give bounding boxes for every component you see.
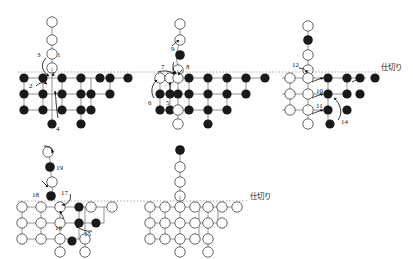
node-open <box>145 202 155 212</box>
node-filled <box>123 73 132 82</box>
node-filled <box>184 89 193 98</box>
node-open <box>203 234 213 244</box>
node-filled <box>76 89 85 98</box>
node-filled <box>38 73 47 82</box>
node-open <box>47 177 57 187</box>
node-filled <box>38 105 47 114</box>
node-filled <box>86 89 95 98</box>
node-filled <box>370 73 379 82</box>
node-open <box>17 218 27 228</box>
node-filled <box>165 89 174 98</box>
node-filled <box>203 105 212 114</box>
annotation-13: 13 <box>357 91 365 99</box>
node-open <box>190 218 200 228</box>
node-open <box>203 218 213 228</box>
node-filled <box>105 89 114 98</box>
node-open <box>55 234 65 244</box>
annotation-8: 8 <box>186 63 190 71</box>
node-filled <box>19 105 28 114</box>
node-open <box>55 247 65 257</box>
annotation-9: 9 <box>171 45 175 53</box>
annotation-3: 3 <box>37 51 41 59</box>
node-open <box>217 218 227 228</box>
annotation-17: 17 <box>61 189 69 197</box>
node-open <box>303 50 313 60</box>
node-filled <box>173 89 182 98</box>
node-open <box>86 202 96 212</box>
node-open <box>190 234 200 244</box>
node-filled <box>325 119 334 128</box>
annotation-1: 1 <box>57 51 61 59</box>
node-filled <box>203 119 212 128</box>
node-filled <box>19 89 28 98</box>
node-filled <box>175 145 185 155</box>
annotation-11: 11 <box>316 102 323 110</box>
annotation-7: 7 <box>161 63 165 71</box>
node-filled <box>76 105 85 114</box>
node-filled <box>342 105 351 114</box>
node-filled <box>57 89 66 98</box>
annotation-12: 12 <box>292 61 300 69</box>
annotation-10: 10 <box>316 87 324 95</box>
node-open <box>173 105 183 115</box>
figure-canvas: 仕切り 仕切り <box>0 0 413 259</box>
node-filled <box>323 89 332 98</box>
node-open <box>107 202 117 212</box>
node-open <box>285 105 295 115</box>
node-filled <box>74 218 83 227</box>
node-open <box>232 202 242 212</box>
node-open <box>175 234 185 244</box>
annotation-2: 2 <box>29 82 33 90</box>
node-filled <box>184 105 193 114</box>
node-open <box>175 35 185 45</box>
node-filled <box>222 73 231 82</box>
node-filled <box>86 105 95 114</box>
node-filled <box>342 89 351 98</box>
node-filled <box>76 73 85 82</box>
node-open <box>303 73 313 83</box>
node-open <box>285 73 295 83</box>
node-filled <box>57 105 66 114</box>
node-open <box>80 247 90 257</box>
node-filled <box>155 105 164 114</box>
annotation-6: 6 <box>148 99 152 107</box>
node-open <box>155 73 165 83</box>
annotation-16: 16 <box>55 224 63 232</box>
annotation-19: 19 <box>56 164 64 172</box>
node-filled <box>241 73 250 82</box>
node-open <box>55 202 65 212</box>
node-open <box>203 202 213 212</box>
node-filled <box>45 162 55 172</box>
node-filled <box>184 73 193 82</box>
annotation-4: 4 <box>56 125 60 133</box>
divider-label-top: 仕切り <box>381 62 402 72</box>
node-open <box>190 202 200 212</box>
node-open <box>36 234 46 244</box>
node-filled <box>175 50 185 60</box>
node-open <box>175 247 185 257</box>
node-open <box>47 17 57 27</box>
node-open <box>160 218 170 228</box>
divider-label-bottom: 仕切り <box>250 191 271 201</box>
node-open <box>303 105 313 115</box>
node-open <box>145 218 155 228</box>
node-open <box>203 247 213 257</box>
node-open <box>175 218 185 228</box>
node-filled <box>105 73 114 82</box>
node-filled <box>203 73 212 82</box>
node-open <box>36 202 46 212</box>
node-filled <box>342 73 351 82</box>
node-open <box>175 202 185 212</box>
node-open <box>175 177 185 187</box>
node-open <box>47 49 57 59</box>
annotation-14: 14 <box>341 118 349 126</box>
node-filled <box>38 89 47 98</box>
node-open <box>36 218 46 228</box>
node-open <box>217 202 227 212</box>
node-filled <box>67 236 76 245</box>
lattice-diagram-svg: 仕切り 仕切り <box>0 0 413 259</box>
node-open <box>173 73 183 83</box>
node-open <box>43 147 53 157</box>
node-filled <box>74 202 83 211</box>
annotation-18: 18 <box>32 191 40 199</box>
